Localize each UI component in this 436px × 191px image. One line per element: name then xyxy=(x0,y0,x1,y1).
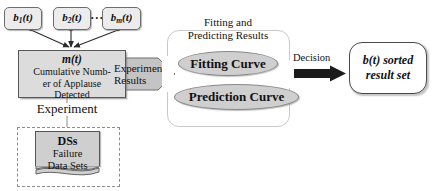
input-box-b1[interactable]: b1(t) xyxy=(4,7,42,30)
experimental-results-line2: Results xyxy=(114,74,162,86)
arrow-b1-to-m xyxy=(31,30,69,47)
experimental-results-label: Experimental Results xyxy=(114,62,162,86)
sorted-result-set-box[interactable]: b(t) sorted result set xyxy=(349,42,427,94)
fitting-header-line1: Fitting and xyxy=(168,16,288,29)
fitting-group-bracket xyxy=(167,30,290,127)
experiment-label: Experiment xyxy=(17,101,117,117)
decision-label: Decision xyxy=(293,52,330,63)
result-line1: b(t) sorted xyxy=(363,53,413,68)
fitting-group-header: Fitting and Predicting Results xyxy=(168,16,288,41)
decision-arrow xyxy=(286,66,346,82)
bracket-left-gap xyxy=(162,56,174,92)
fitting-curve-pill[interactable]: Fitting Curve xyxy=(178,51,278,76)
fitting-header-line2: Predicting Results xyxy=(168,29,288,42)
result-line2: result set xyxy=(366,68,410,83)
datasets-line2: Data Sets xyxy=(36,160,99,172)
cumulative-desc-line3: Detected xyxy=(19,89,125,101)
diagram-canvas: b1(t) b2(t) ··· bm(t) m(t) Cumulative Nu… xyxy=(0,0,436,191)
cumulative-desc-line1: Cumulative Numb- xyxy=(19,66,125,78)
cumulative-symbol: m(t) xyxy=(19,53,125,66)
input-box-bm-label: bm(t) xyxy=(111,12,133,25)
cumulative-applause-box[interactable]: m(t) Cumulative Numb- er of Applause Det… xyxy=(18,50,126,98)
cumulative-desc-line2: er of Applause xyxy=(19,78,125,90)
arrow-bm-to-m xyxy=(74,30,118,47)
prediction-curve-pill[interactable]: Prediction Curve xyxy=(174,84,299,110)
input-box-b2-label: b2(t) xyxy=(62,12,82,25)
prediction-curve-label: Prediction Curve xyxy=(189,89,284,105)
input-box-bm[interactable]: bm(t) xyxy=(102,7,141,30)
bracket-right-gap xyxy=(282,60,294,88)
input-box-b1-label: b1(t) xyxy=(13,12,33,25)
fitting-curve-label: Fitting Curve xyxy=(190,56,265,72)
experimental-results-line1: Experimental xyxy=(114,62,162,74)
datasets-title: DSs xyxy=(36,132,99,148)
failure-datasets-document[interactable]: DSs Failure Data Sets xyxy=(35,131,100,166)
input-box-b2[interactable]: b2(t) xyxy=(53,7,91,30)
datasets-line1: Failure xyxy=(36,148,99,160)
